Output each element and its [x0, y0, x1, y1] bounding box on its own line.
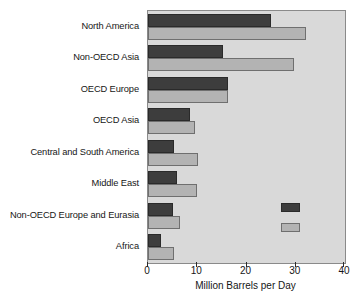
- category-label: Middle East: [0, 178, 139, 188]
- bar-light-2: [148, 90, 228, 103]
- bar-light-6: [148, 216, 180, 229]
- bar-dark-4: [148, 140, 174, 153]
- chart-legend: [281, 203, 305, 235]
- bar-light-3: [148, 121, 195, 134]
- x-tick-label: 10: [176, 265, 216, 277]
- category-label: OECD Asia: [0, 115, 139, 125]
- bar-chart: North AmericaNon-OECD AsiaOECD EuropeOEC…: [0, 0, 356, 302]
- bar-dark-0: [148, 14, 271, 27]
- category-label: North America: [0, 21, 139, 31]
- bar-light-4: [148, 153, 198, 166]
- category-label: OECD Europe: [0, 84, 139, 94]
- bars-container: [148, 11, 345, 263]
- x-axis-title: Million Barrels per Day: [147, 280, 344, 292]
- category-label: Non-OECD Europe and Eurasia: [0, 210, 139, 220]
- x-axis-tick-labels: 010203040: [0, 265, 356, 279]
- x-tick-label: 20: [226, 265, 266, 277]
- bar-light-0: [148, 27, 306, 40]
- bar-dark-1: [148, 45, 223, 58]
- bar-dark-5: [148, 171, 177, 184]
- legend-swatch-light-series: [281, 223, 300, 232]
- x-tick-label: 40: [324, 265, 356, 277]
- plot-area: [147, 10, 346, 264]
- bar-light-1: [148, 58, 294, 71]
- bar-dark-7: [148, 234, 161, 247]
- bar-dark-3: [148, 108, 190, 121]
- bar-light-5: [148, 184, 197, 197]
- category-label: Central and South America: [0, 147, 139, 157]
- category-label: Non-OECD Asia: [0, 52, 139, 62]
- x-tick-label: 0: [127, 265, 167, 277]
- bar-light-7: [148, 247, 174, 260]
- bar-dark-2: [148, 77, 228, 90]
- x-tick-label: 30: [275, 265, 315, 277]
- category-axis-labels: North AmericaNon-OECD AsiaOECD EuropeOEC…: [0, 10, 143, 262]
- category-label: Africa: [0, 241, 139, 251]
- bar-dark-6: [148, 203, 173, 216]
- legend-swatch-dark-series: [281, 203, 300, 212]
